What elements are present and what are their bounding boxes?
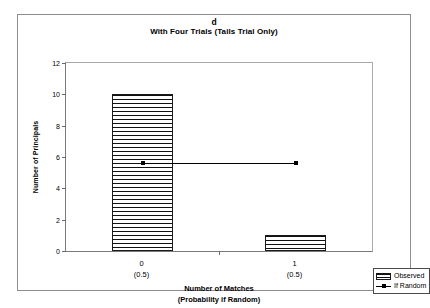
y-tick-mark — [62, 251, 66, 252]
bar-observed — [112, 94, 173, 251]
y-tick-label: 0 — [56, 248, 60, 255]
y-tick-mark — [62, 188, 66, 189]
x-category-label: 0(0.5) — [134, 258, 149, 280]
legend-swatch-observed-icon — [376, 273, 391, 280]
plot-inner: 024681012 — [66, 63, 372, 251]
chart-legend: Observed If Random — [373, 268, 430, 294]
legend-label-observed: Observed — [394, 272, 424, 280]
y-axis-title: Number of Principals — [32, 121, 39, 193]
legend-item-observed: Observed — [376, 271, 426, 281]
x-axis-title-sub: (Probability if Random) — [65, 294, 373, 305]
x-axis-title-main: Number of Matches — [65, 283, 373, 294]
chart-title: With Four Trials (Tails Trial Only) — [18, 27, 410, 37]
legend-label-if-random: If Random — [394, 282, 426, 290]
x-category-label-sub: (0.5) — [287, 269, 302, 280]
x-category-label-sub: (0.5) — [134, 269, 149, 280]
x-category-label: 1(0.5) — [287, 258, 302, 280]
plot-area: 024681012 — [65, 62, 373, 252]
y-tick-label: 12 — [52, 60, 60, 67]
x-category-label-main: 1 — [292, 259, 296, 268]
x-category-label-main: 0 — [139, 259, 143, 268]
panel-letter: d — [18, 17, 410, 27]
y-tick-mark — [62, 63, 66, 64]
chart-title-block: d With Four Trials (Tails Trial Only) — [18, 17, 410, 37]
legend-item-if-random: If Random — [376, 281, 426, 291]
x-tick-mark — [219, 251, 220, 255]
y-tick-mark — [62, 126, 66, 127]
y-tick-mark — [62, 94, 66, 95]
y-tick-mark — [62, 220, 66, 221]
y-tick-label: 10 — [52, 91, 60, 98]
if-random-marker — [141, 161, 145, 165]
y-tick-label: 2 — [56, 216, 60, 223]
figure-frame: d With Four Trials (Tails Trial Only) Nu… — [17, 14, 411, 291]
bar-observed — [265, 235, 326, 251]
y-tick-label: 6 — [56, 154, 60, 161]
x-axis-title: Number of Matches (Probability if Random… — [65, 283, 373, 305]
y-tick-label: 8 — [56, 122, 60, 129]
if-random-marker — [294, 161, 298, 165]
if-random-line — [143, 163, 296, 164]
y-tick-label: 4 — [56, 185, 60, 192]
legend-swatch-if-random-icon — [376, 283, 391, 290]
y-tick-mark — [62, 157, 66, 158]
